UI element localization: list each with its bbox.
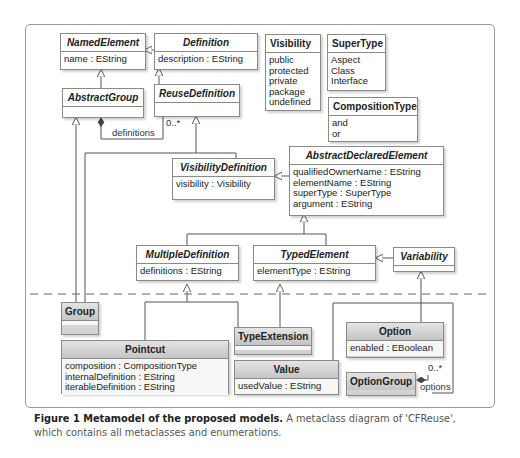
class-visibility-definition[interactable]: VisibilityDefinition visibility : Visibi… — [172, 158, 275, 200]
figure-caption: Figure 1 Metamodel of the proposed model… — [34, 412, 486, 440]
class-name: Value — [235, 361, 338, 379]
class-name: MultipleDefinition — [137, 246, 238, 264]
class-pointcut[interactable]: Pointcut composition : CompositionType i… — [61, 340, 229, 394]
class-option-group[interactable]: OptionGroup — [346, 372, 416, 396]
class-multiple-definition[interactable]: MultipleDefinition definitions : EString — [136, 245, 239, 281]
class-name: AbstractDeclaredElement — [290, 147, 443, 165]
attribute: iterableDefinition : EString — [65, 382, 225, 393]
class-name: VisibilityDefinition — [173, 159, 274, 177]
class-name: OptionGroup — [347, 373, 415, 390]
class-name: ReuseDefinition — [155, 85, 239, 103]
enum-literal: Interface — [331, 76, 382, 87]
enum-super-type[interactable]: SuperType Aspect Class Interface — [327, 34, 386, 91]
enum-literal: and — [332, 118, 414, 129]
class-name: NamedElement — [61, 34, 145, 52]
class-name: Option — [347, 323, 443, 341]
attribute: qualifiedOwnerName : EString — [293, 167, 440, 178]
class-abstract-group[interactable]: AbstractGroup — [62, 88, 144, 118]
enum-composition-type[interactable]: CompositionType and or — [328, 97, 418, 142]
association-multiplicity-definitions: 0..* — [166, 117, 180, 128]
association-role-options: options — [420, 381, 451, 392]
enum-literal: undefined — [269, 97, 317, 108]
class-variability[interactable]: Variability — [393, 247, 455, 272]
attribute: enabled : EBoolean — [350, 343, 440, 354]
enum-name: Visibility — [266, 35, 320, 53]
class-name: Variability — [394, 248, 454, 266]
enum-name: SuperType — [328, 35, 385, 53]
attribute: usedValue : EString — [238, 381, 335, 392]
enum-visibility[interactable]: Visibility public protected private pack… — [265, 34, 321, 111]
enum-literal: private — [269, 76, 317, 87]
class-name: TypedElement — [254, 246, 375, 264]
attribute: composition : CompositionType — [65, 361, 225, 372]
attribute: definitions : EString — [140, 266, 235, 277]
class-name: Definition — [155, 34, 257, 52]
attribute: name : EString — [64, 54, 142, 65]
enum-literal: Aspect — [331, 55, 382, 66]
attribute: argument : EString — [293, 199, 440, 210]
enum-literal: public — [269, 55, 317, 66]
class-value[interactable]: Value usedValue : EString — [234, 360, 339, 395]
class-reuse-definition[interactable]: ReuseDefinition — [154, 84, 240, 117]
class-type-extension[interactable]: TypeExtension — [234, 327, 312, 355]
class-definition[interactable]: Definition description : EString — [154, 33, 258, 70]
class-name: Pointcut — [62, 341, 228, 359]
attribute: visibility : Visibility — [176, 179, 271, 190]
class-group[interactable]: Group — [61, 302, 99, 335]
attribute: description : EString — [158, 54, 254, 65]
class-name: AbstractGroup — [63, 89, 143, 107]
class-abstract-declared-element[interactable]: AbstractDeclaredElement qualifiedOwnerNa… — [289, 146, 444, 216]
association-multiplicity-options: 0..* — [428, 362, 442, 373]
enum-literal: or — [332, 129, 414, 140]
attribute: superType : SuperType — [293, 188, 440, 199]
class-option[interactable]: Option enabled : EBoolean — [346, 322, 444, 358]
attribute: elementType : EString — [257, 266, 372, 277]
association-role-definitions: definitions — [112, 127, 155, 138]
class-named-element[interactable]: NamedElement name : EString — [60, 33, 146, 70]
class-typed-element[interactable]: TypedElement elementType : EString — [253, 245, 376, 281]
caption-title: Figure 1 Metamodel of the proposed model… — [34, 413, 283, 424]
class-name: TypeExtension — [235, 328, 311, 346]
enum-name: CompositionType — [329, 98, 417, 116]
class-name: Group — [62, 303, 98, 321]
